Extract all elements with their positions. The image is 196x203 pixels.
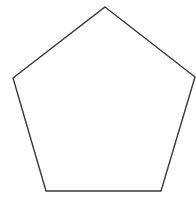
diagram-canvas bbox=[0, 0, 196, 203]
pentagon-shape bbox=[13, 7, 195, 191]
